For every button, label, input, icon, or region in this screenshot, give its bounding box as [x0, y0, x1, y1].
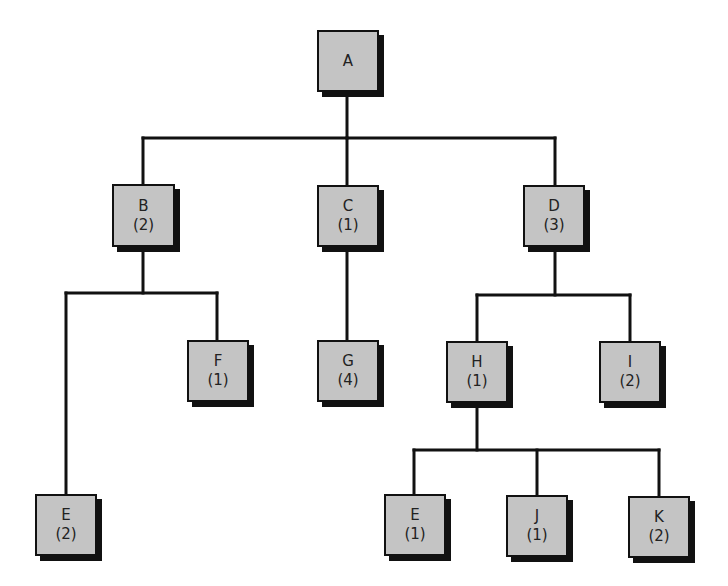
node-count: (1) [466, 372, 487, 391]
node-h: H (1) [446, 341, 508, 403]
tree-diagram: A B (2) C (1) D (3) E (2) F (1) G (4) H … [0, 0, 728, 586]
node-label: E [61, 506, 70, 525]
node-f: F (1) [187, 340, 249, 402]
node-d: D (3) [523, 185, 585, 247]
node-count: (1) [404, 525, 425, 544]
node-count: (1) [207, 371, 228, 390]
node-count: (1) [337, 216, 358, 235]
node-e-right: E (1) [384, 494, 446, 556]
node-count: (4) [337, 371, 358, 390]
node-label: K [654, 508, 664, 527]
node-c: C (1) [317, 185, 379, 247]
node-k: K (2) [628, 496, 690, 558]
node-count: (2) [133, 216, 154, 235]
node-a: A [317, 30, 379, 92]
node-label: E [410, 506, 419, 525]
node-count: (2) [55, 525, 76, 544]
node-count: (1) [526, 526, 547, 545]
node-label: C [343, 197, 353, 216]
node-e-left: E (2) [35, 494, 97, 556]
node-g: G (4) [317, 340, 379, 402]
node-label: J [535, 507, 539, 526]
node-label: D [548, 197, 560, 216]
node-label: F [214, 352, 223, 371]
node-label: I [628, 353, 632, 372]
node-j: J (1) [506, 495, 568, 557]
node-label: G [342, 352, 354, 371]
node-i: I (2) [599, 341, 661, 403]
node-count: (2) [648, 527, 669, 546]
node-label: B [138, 197, 148, 216]
node-b: B (2) [112, 184, 175, 247]
node-label: A [343, 52, 353, 71]
node-count: (2) [619, 372, 640, 391]
node-label: H [471, 353, 482, 372]
node-count: (3) [543, 216, 564, 235]
